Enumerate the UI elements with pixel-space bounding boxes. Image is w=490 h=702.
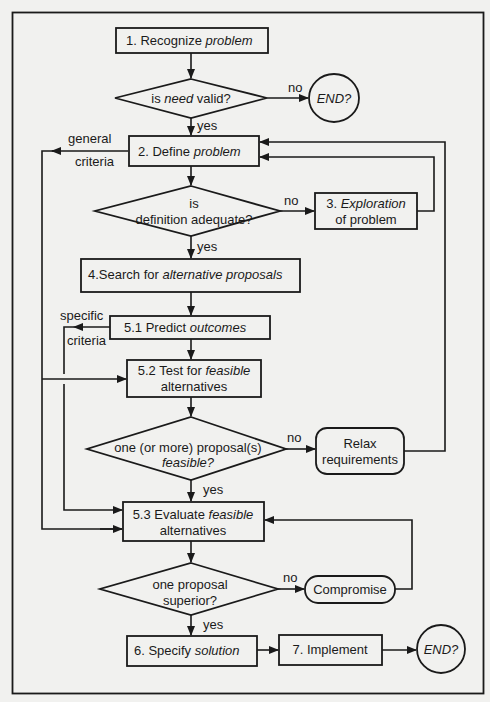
label-yes-4: yes: [203, 617, 224, 632]
flowchart: no yes general criteria no yes specific …: [0, 0, 490, 702]
svg-text:Relax: Relax: [343, 436, 377, 451]
svg-text:of problem: of problem: [335, 212, 396, 227]
node-evaluate-feasible: 5.3 Evaluate feasible alternatives: [123, 502, 264, 541]
svg-text:alternatives: alternatives: [160, 523, 227, 538]
edge-relax-n2: [260, 142, 445, 451]
svg-text:definition adequate?: definition adequate?: [135, 212, 252, 227]
label-no-3: no: [287, 430, 301, 445]
svg-text:END?: END?: [317, 91, 352, 106]
label-no-4: no: [283, 570, 297, 585]
label-no-2: no: [284, 193, 298, 208]
node-search-alternatives: 4.Search for alternative proposals: [81, 259, 300, 292]
svg-text:feasible?: feasible?: [162, 455, 215, 470]
svg-text:is need valid?: is need valid?: [151, 91, 231, 106]
decision-definition-adequate: is definition adequate?: [95, 186, 280, 236]
label-yes-2: yes: [197, 239, 218, 254]
terminal-end-1: END?: [309, 74, 359, 122]
svg-text:superior?: superior?: [163, 593, 217, 608]
svg-text:1. Recognize problem: 1. Recognize problem: [126, 33, 253, 48]
decision-need-valid: is need valid?: [115, 79, 267, 118]
node-compromise: Compromise: [305, 576, 395, 603]
svg-text:5.1 Predict outcomes: 5.1 Predict outcomes: [124, 320, 247, 335]
node-define-problem: 2. Define problem: [129, 136, 259, 166]
label-specific-criteria: criteria: [67, 333, 107, 348]
label-no-1: no: [288, 80, 302, 95]
node-recognize-problem: 1. Recognize problem: [116, 28, 268, 53]
decision-proposal-superior: one proposal superior?: [100, 563, 278, 615]
svg-text:4.Search for alternative prop: 4.Search for alternative proposals: [88, 267, 283, 282]
label-yes-3: yes: [203, 482, 224, 497]
svg-text:2. Define problem: 2. Define problem: [138, 144, 241, 159]
svg-text:7. Implement: 7. Implement: [292, 642, 368, 657]
label-general: general: [68, 131, 111, 146]
svg-text:alternatives: alternatives: [161, 379, 228, 394]
svg-text:END?: END?: [424, 642, 459, 657]
node-test-feasible: 5.2 Test for feasible alternatives: [127, 360, 261, 397]
svg-text:one (or more) proposal(s): one (or more) proposal(s): [114, 440, 261, 455]
svg-text:is: is: [189, 196, 199, 211]
node-relax-requirements: Relax requirements: [316, 428, 404, 474]
label-general-criteria: criteria: [75, 154, 115, 169]
node-exploration: 3. Exploration of problem: [315, 193, 417, 229]
label-specific: specific: [60, 308, 104, 323]
decision-proposals-feasible: one (or more) proposal(s) feasible?: [87, 417, 286, 480]
svg-text:requirements: requirements: [322, 452, 398, 467]
node-implement: 7. Implement: [279, 635, 382, 665]
label-yes-1: yes: [197, 118, 218, 133]
svg-text:6. Specify solution: 6. Specify solution: [134, 643, 240, 658]
terminal-end-2: END?: [417, 625, 465, 673]
svg-text:one proposal: one proposal: [152, 577, 227, 592]
svg-text:3. Exploration: 3. Exploration: [326, 196, 406, 211]
svg-text:5.2 Test for feasible: 5.2 Test for feasible: [138, 363, 251, 378]
node-predict-outcomes: 5.1 Predict outcomes: [110, 316, 270, 339]
svg-text:5.3 Evaluate feasible: 5.3 Evaluate feasible: [133, 507, 254, 522]
node-specify-solution: 6. Specify solution: [127, 636, 257, 666]
svg-text:Compromise: Compromise: [313, 582, 387, 597]
